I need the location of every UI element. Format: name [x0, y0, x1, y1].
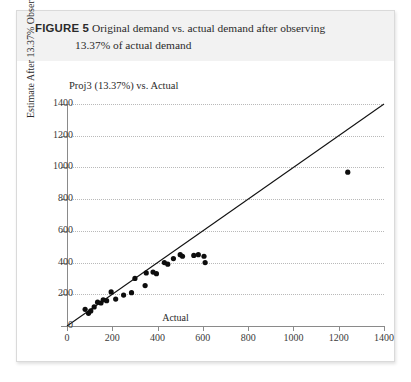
data-points-group — [83, 170, 351, 316]
data-point — [165, 262, 170, 267]
x-tick-label: 1200 — [319, 332, 359, 343]
figure-caption-line-1: Original demand vs. actual demand after … — [92, 22, 325, 34]
x-tick-label: 0 — [47, 332, 87, 343]
x-tick-label: 800 — [228, 332, 268, 343]
data-point — [345, 170, 350, 175]
data-point — [203, 260, 208, 265]
y-tick-label: 400 — [33, 256, 73, 267]
data-point — [132, 276, 137, 281]
x-tick-label: 200 — [92, 332, 132, 343]
data-point — [191, 253, 196, 258]
y-tick-label: 0 — [33, 319, 73, 330]
data-point — [180, 254, 185, 259]
figure-caption-line-2: 13.37% of actual demand — [35, 37, 380, 54]
data-point — [171, 256, 176, 261]
figure-caption-band: FIGURE 5 Original demand vs. actual dema… — [17, 11, 394, 61]
x-tick-label: 1000 — [273, 332, 313, 343]
plot-area: 0200400600800100012001400020040060080010… — [67, 104, 384, 326]
figure-card: FIGURE 5 Original demand vs. actual dema… — [16, 10, 395, 362]
data-point — [129, 290, 134, 295]
y-tick-label: 200 — [33, 287, 73, 298]
data-point — [104, 298, 109, 303]
data-point — [196, 252, 201, 257]
data-point — [121, 292, 126, 297]
data-point — [113, 296, 118, 301]
y-tick-label: 800 — [33, 192, 73, 203]
x-tick-label: 400 — [138, 332, 178, 343]
data-point — [154, 271, 159, 276]
data-point — [201, 254, 206, 259]
x-tick-label: 1400 — [364, 332, 404, 343]
figure-caption: FIGURE 5 Original demand vs. actual dema… — [35, 20, 380, 53]
y-tick-label: 600 — [33, 224, 73, 235]
data-point — [143, 283, 148, 288]
y-tick-label: 1400 — [33, 97, 73, 108]
data-point — [92, 304, 97, 309]
data-point — [144, 270, 149, 275]
scatter-data-layer — [67, 104, 384, 326]
y-tick-label: 1000 — [33, 160, 73, 171]
chart-plot-region: Proj3 (13.37%) vs. Actual Estimate After… — [17, 61, 396, 363]
x-tick-label: 600 — [183, 332, 223, 343]
x-axis-line — [67, 326, 385, 327]
chart-title: Proj3 (13.37%) vs. Actual — [69, 80, 178, 91]
reference-line — [67, 104, 384, 326]
data-point — [83, 307, 88, 312]
data-point — [88, 308, 93, 313]
figure-number: FIGURE 5 — [35, 22, 89, 34]
data-point — [109, 289, 114, 294]
y-tick-label: 1200 — [33, 129, 73, 140]
